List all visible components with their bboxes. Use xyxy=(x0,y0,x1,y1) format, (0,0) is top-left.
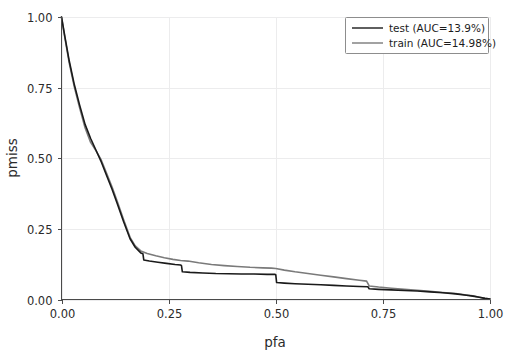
legend-label-test: test (AUC=13.9%) xyxy=(389,22,485,34)
x-axis-title: pfa xyxy=(264,334,286,350)
x-tick-label: 0.25 xyxy=(157,307,183,321)
y-tick-label: 1.00 xyxy=(27,11,53,25)
x-tick-label: 0.50 xyxy=(264,307,290,321)
x-tick-label: 0.00 xyxy=(50,307,76,321)
x-tick-label: 1.00 xyxy=(478,307,504,321)
chart-legend[interactable]: test (AUC=13.9%) train (AUC=14.98%) xyxy=(346,18,497,54)
roc-det-plot: 0.000.250.500.751.000.000.250.500.751.00… xyxy=(0,0,517,359)
y-tick-label: 0.50 xyxy=(27,152,53,166)
y-tick-label: 0.25 xyxy=(27,223,53,237)
x-tick-label: 0.75 xyxy=(371,307,397,321)
y-tick-label: 0.75 xyxy=(27,82,53,96)
chart-figure: 0.000.250.500.751.000.000.250.500.751.00… xyxy=(0,0,517,359)
y-tick-label: 0.00 xyxy=(27,294,53,308)
legend-label-train: train (AUC=14.98%) xyxy=(389,37,496,49)
y-axis-title: pmiss xyxy=(4,138,20,178)
